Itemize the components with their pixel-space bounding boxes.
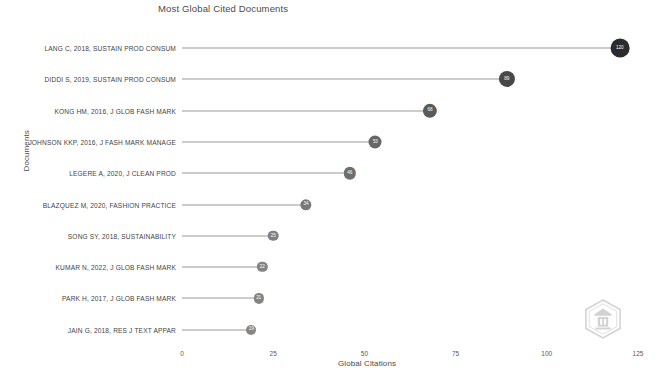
x-axis-tick-label: 50 <box>361 350 368 357</box>
x-axis-tick-label: 125 <box>633 350 644 357</box>
x-axis-tick-label: 100 <box>541 350 552 357</box>
hexagon-badge-watermark-icon <box>584 299 622 339</box>
x-axis-tick-label: 75 <box>452 350 459 357</box>
x-axis-tick-labels: 0255075100125 <box>0 0 666 370</box>
x-axis-tick-label: 25 <box>270 350 277 357</box>
chart-container: Most Global Cited Documents Documents Gl… <box>0 0 666 370</box>
x-axis-tick-label: 0 <box>180 350 184 357</box>
